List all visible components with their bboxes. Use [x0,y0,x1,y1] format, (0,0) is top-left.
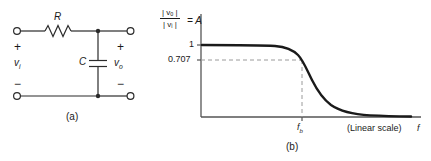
input-voltage-subscript: i [19,63,21,70]
magnitude-response-curve [202,45,411,117]
y-tick-label-cutoff: 0.707 [168,55,191,64]
input-terminal-top [14,28,21,35]
output-minus-sign: − [117,78,124,90]
break-frequency-subscript: b [300,127,303,134]
x-tick-label-fb: fb [297,123,303,132]
input-plus-sign: + [14,41,21,53]
input-terminal-bottom [14,93,21,100]
panel-b-caption: (b) [286,142,298,152]
y-axis-fraction: | vₒ | | vᵢ | [160,8,180,30]
input-minus-sign: − [14,78,21,90]
panel-a-circuit: R C + − + − vi vo (a) [0,0,155,161]
output-terminal-top [127,28,134,35]
y-axis-numerator: | vₒ | [160,8,180,18]
resistor-symbol [45,26,71,37]
x-axis-scale-note: (Linear scale) [347,124,402,133]
output-plus-sign: + [117,41,124,53]
resistor-label: R [54,12,61,22]
panel-a-caption: (a) [66,112,78,122]
figure-container: R C + − + − vi vo (a) [0,0,431,161]
output-terminal-bottom [127,93,134,100]
capacitor-label: C [79,57,86,67]
y-axis-denominator: | vᵢ | [160,19,180,30]
x-axis-variable: f [417,124,420,133]
y-axis-equals-a: = A [187,15,202,26]
output-voltage-subscript: o [119,63,123,70]
panel-b-plot: | vₒ | | vᵢ | = A 1 0.707 fb (Linear sca… [155,0,431,161]
output-voltage-label: vo [114,58,123,68]
circuit-schematic [0,0,155,161]
y-tick-label-unity: 1 [189,40,194,49]
input-voltage-label: vi [14,58,21,68]
